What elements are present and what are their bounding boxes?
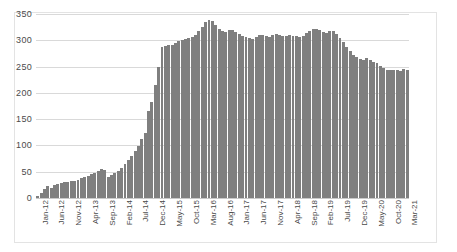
plot-area [36,14,409,198]
x-axis-tick-label: Jun-12 [57,200,66,224]
x-axis-tick-label: Mar-16 [209,200,218,225]
x-axis-tick-label: Nov-12 [74,200,83,226]
y-axis-tick-label: 0 [27,193,32,203]
y-axis-tick-label: 300 [16,35,32,45]
x-axis-tick-label: Jan-17 [242,200,251,224]
x-axis-tick-label: Feb-14 [125,200,134,225]
x-axis-tick-label: Jan-12 [41,200,50,224]
x-axis: Jan-12Jun-12Nov-12Apr-13Sep-13Feb-14Jul-… [36,200,409,250]
x-axis-tick-label: Apr-18 [293,200,302,224]
x-axis-tick-label: Jul-14 [141,200,150,222]
x-axis-tick-label: May-20 [377,200,386,227]
x-axis-tick-label: Sep-13 [108,200,117,226]
x-axis-tick-label: Jul-19 [343,200,352,222]
x-axis-tick-label: Dec-14 [158,200,167,226]
bar-series [36,14,409,198]
x-axis-tick-label: Sep-18 [310,200,319,226]
y-axis-tick-label: 200 [16,88,32,98]
x-axis-tick-label: Feb-19 [326,200,335,225]
x-axis-tick-label: Apr-13 [91,200,100,224]
x-axis-tick-label: Aug-16 [226,200,235,226]
x-axis-tick-label: Jun-17 [259,200,268,224]
x-axis-tick-label: Oct-15 [192,200,201,224]
y-axis-tick-label: 100 [16,140,32,150]
bar [406,70,409,198]
y-axis-tick-label: 350 [16,9,32,19]
y-axis-tick-label: 150 [16,114,32,124]
gridline [36,198,409,199]
x-axis-tick-label: Dec-19 [360,200,369,226]
y-axis-tick-label: 250 [16,62,32,72]
y-axis-tick-label: 50 [21,167,32,177]
y-axis: 050100150200250300350 [0,0,36,190]
x-axis-tick-label: Oct-20 [394,200,403,224]
x-axis-tick-label: Nov-17 [276,200,285,226]
x-axis-tick-label: Mar-21 [410,200,419,225]
bar-chart: 050100150200250300350 Jan-12Jun-12Nov-12… [0,0,457,252]
x-axis-tick-label: May-15 [175,200,184,227]
